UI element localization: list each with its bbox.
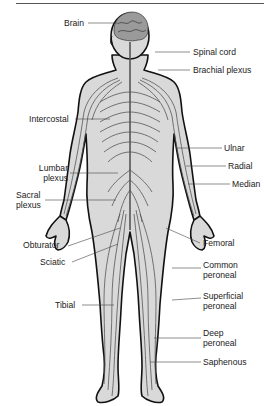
label-lumbar-plexus-line1: Lumbar	[20, 163, 68, 173]
label-common-peroneal-line1: Common	[203, 260, 238, 270]
label-ulnar: Ulnar	[224, 143, 245, 153]
label-deep-peroneal: Deep peroneal	[203, 328, 236, 348]
label-brain: Brain	[64, 18, 84, 28]
label-superficial-peroneal-line2: peroneal	[203, 301, 243, 311]
label-deep-peroneal-line2: peroneal	[203, 338, 236, 348]
label-radial: Radial	[228, 161, 252, 171]
label-sacral-plexus-line1: Sacral	[16, 190, 41, 200]
label-lumbar-plexus-line2: plexus	[20, 173, 68, 183]
label-median: Median	[232, 179, 260, 189]
label-tibial: Tibial	[55, 300, 75, 310]
label-saphenous: Saphenous	[203, 357, 247, 367]
label-sacral-plexus-line2: plexus	[16, 200, 41, 210]
label-superficial-peroneal-line1: Superficial	[203, 291, 243, 301]
label-femoral: Femoral	[203, 238, 235, 248]
label-sciatic: Sciatic	[40, 257, 65, 267]
label-deep-peroneal-line1: Deep	[203, 328, 236, 338]
label-brachial-plexus: Brachial plexus	[193, 65, 251, 75]
label-common-peroneal: Common peroneal	[203, 260, 238, 280]
label-common-peroneal-line2: peroneal	[203, 270, 238, 280]
label-lumbar-plexus: Lumbar plexus	[20, 163, 68, 183]
label-obturator: Obturator	[23, 240, 59, 250]
label-spinal-cord: Spinal cord	[193, 47, 236, 57]
label-intercostal: Intercostal	[29, 114, 69, 124]
label-superficial-peroneal: Superficial peroneal	[203, 291, 243, 311]
label-sacral-plexus: Sacral plexus	[16, 190, 41, 210]
